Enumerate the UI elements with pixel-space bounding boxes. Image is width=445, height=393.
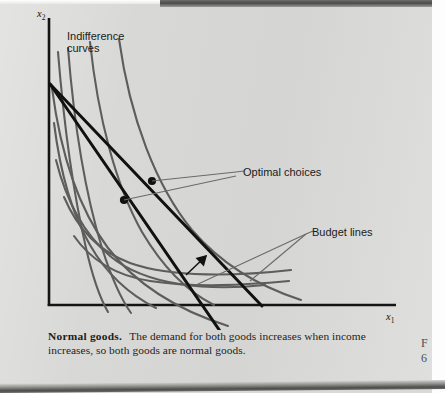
scanned-page: x2 x1 — [0, 0, 445, 393]
budget-line-high-income — [50, 84, 262, 306]
figure-caption: Normal goods.The demand for both goods i… — [48, 329, 380, 358]
y-axis-label: x2 — [36, 8, 46, 22]
income-increase-arrow — [186, 256, 206, 275]
leader-optimal-2 — [152, 172, 236, 181]
x-axis-label: x1 — [385, 311, 395, 325]
page-gutter-right — [432, 0, 445, 393]
caption-lead: Normal goods. — [48, 330, 122, 342]
label-optimal-choices: Optimal choices — [243, 166, 322, 178]
label-indifference-curves-line2: curves — [67, 42, 100, 54]
indifference-curves — [52, 39, 301, 326]
leader-lines — [124, 171, 313, 285]
leader-budget-2 — [250, 234, 306, 281]
figure-normal-goods: x2 x1 — [0, 0, 432, 330]
label-indifference-curves-line1: Indifference — [67, 30, 124, 42]
label-budget-lines: Budget lines — [312, 226, 373, 238]
budget-line-low-income — [50, 84, 220, 330]
